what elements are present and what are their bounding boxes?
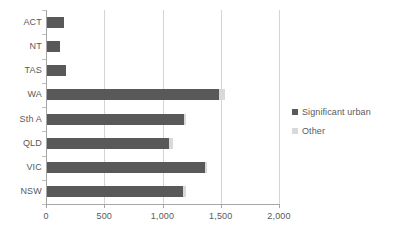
bar-segment	[219, 89, 225, 100]
x-axis-tick	[163, 204, 164, 208]
x-axis-tick	[46, 204, 47, 208]
gridline-1500	[221, 10, 222, 204]
bar-row	[46, 41, 60, 52]
category-label-sth-a: Sth A	[2, 114, 42, 125]
legend-label: Significant urban	[302, 107, 371, 118]
bar-row	[46, 138, 173, 149]
legend-label: Other	[302, 126, 325, 137]
y-axis-tick	[42, 10, 46, 11]
bar-segment	[184, 114, 186, 125]
bar-segment	[46, 65, 66, 76]
x-tick-label: 0	[26, 210, 66, 222]
y-axis-line	[46, 10, 47, 204]
category-label-tas: TAS	[2, 65, 42, 76]
y-axis-tick	[42, 59, 46, 60]
category-label-nt: NT	[2, 41, 42, 52]
bar-row	[46, 186, 186, 197]
x-tick-label: 2,000	[259, 210, 299, 222]
bar-segment	[46, 89, 219, 100]
y-axis-tick	[42, 131, 46, 132]
bar-row	[46, 162, 207, 173]
chart-legend: Significant urbanOther	[292, 104, 401, 142]
y-axis-tick	[42, 180, 46, 181]
gridline-500	[104, 10, 105, 204]
bar-segment	[46, 138, 169, 149]
y-axis-tick	[42, 204, 46, 205]
y-axis-tick	[42, 156, 46, 157]
bar-row	[46, 114, 186, 125]
legend-swatch-icon	[292, 109, 298, 115]
x-axis-tick	[221, 204, 222, 208]
gridline-2000	[279, 10, 280, 204]
legend-item: Other	[292, 123, 401, 139]
category-label-qld: QLD	[2, 138, 42, 149]
category-axis-labels: ACTNTTASWASth AQLDVICNSW	[0, 10, 42, 204]
bar-segment	[46, 114, 184, 125]
bar-row	[46, 17, 64, 28]
x-axis-tick-labels: 05001,0001,5002,000	[0, 210, 401, 224]
bar-segment	[46, 17, 64, 28]
bar-segment	[46, 41, 60, 52]
bar-row	[46, 65, 66, 76]
legend-item: Significant urban	[292, 104, 401, 120]
bar-segment	[169, 138, 173, 149]
x-tick-label: 500	[84, 210, 124, 222]
category-label-vic: VIC	[2, 162, 42, 173]
x-tick-label: 1,000	[143, 210, 183, 222]
bar-chart: ACTNTTASWASth AQLDVICNSW 05001,0001,5002…	[0, 0, 401, 240]
bar-segment	[46, 162, 205, 173]
category-label-nsw: NSW	[2, 186, 42, 197]
legend-swatch-icon	[292, 128, 298, 134]
y-axis-tick	[42, 107, 46, 108]
bar-segment	[205, 162, 207, 173]
y-axis-tick	[42, 34, 46, 35]
y-axis-tick	[42, 83, 46, 84]
bar-segment	[46, 186, 183, 197]
gridline-1000	[163, 10, 164, 204]
x-axis-tick	[104, 204, 105, 208]
category-label-act: ACT	[2, 17, 42, 28]
x-tick-label: 1,500	[201, 210, 241, 222]
plot-area	[46, 10, 279, 204]
category-label-wa: WA	[2, 89, 42, 100]
x-axis-tick	[279, 204, 280, 208]
bar-segment	[183, 186, 186, 197]
bar-row	[46, 89, 225, 100]
